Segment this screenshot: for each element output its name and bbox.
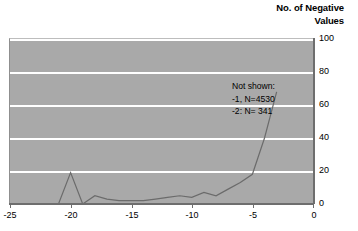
chart-title: No. of Negative Values bbox=[194, 2, 344, 27]
x-tick-label--15: -15 bbox=[117, 210, 147, 220]
x-tick-label--20: -20 bbox=[56, 210, 86, 220]
y-tick-label-0: 0 bbox=[319, 198, 324, 208]
x-tick-label--25: -25 bbox=[0, 210, 25, 220]
plot-area: Not shown: -1, N=4530 -2: N= 341 bbox=[9, 38, 313, 204]
data-line-svg bbox=[10, 39, 313, 204]
x-tick-label-0: 0 bbox=[299, 210, 329, 220]
x-tick-mark--20 bbox=[71, 204, 72, 208]
x-tick-mark--5 bbox=[253, 204, 254, 208]
y-axis-line bbox=[313, 38, 315, 204]
y-tick-label-60: 60 bbox=[319, 99, 329, 109]
x-tick-label--5: -5 bbox=[238, 210, 268, 220]
x-tick-mark--25 bbox=[10, 204, 11, 208]
y-tick-label-20: 20 bbox=[319, 165, 329, 175]
x-tick-mark-0 bbox=[313, 204, 314, 208]
y-tick-label-40: 40 bbox=[319, 132, 329, 142]
x-tick-label--10: -10 bbox=[177, 210, 207, 220]
x-axis-line bbox=[9, 203, 314, 205]
x-tick-mark--15 bbox=[132, 204, 133, 208]
negative-values-line-chart: No. of Negative Values Not shown: -1, N=… bbox=[0, 0, 358, 231]
not-shown-annotation: Not shown: -1, N=4530 -2: N= 341 bbox=[232, 80, 275, 118]
x-tick-mark--10 bbox=[192, 204, 193, 208]
y-tick-label-80: 80 bbox=[319, 66, 329, 76]
y-tick-label-100: 100 bbox=[319, 33, 334, 43]
